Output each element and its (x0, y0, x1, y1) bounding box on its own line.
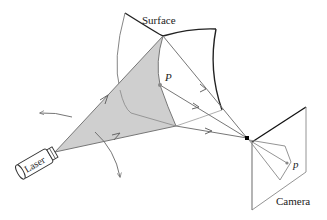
pinhole (245, 136, 249, 140)
point-label-world: P (164, 71, 172, 83)
laser-triangulation-diagram: P p Laser Surface Camera (0, 0, 327, 220)
image-point (285, 161, 288, 164)
point-label-image: p (292, 158, 299, 170)
laser-sheet (55, 36, 176, 152)
laser-device: Laser (14, 145, 59, 180)
world-point: P (158, 71, 172, 87)
surface-label: Surface (142, 14, 176, 26)
camera-label: Camera (276, 195, 310, 207)
